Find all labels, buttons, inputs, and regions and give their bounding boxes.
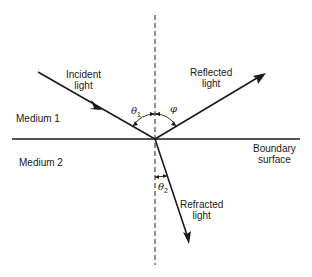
reflected-light-label: Reflected light	[190, 67, 232, 89]
boundary-surface-label: Boundary surface	[253, 143, 296, 165]
boundary-label-line1: Boundary	[253, 143, 296, 154]
theta1-subscript: 1	[137, 111, 141, 118]
phi-symbol: φ	[170, 104, 177, 114]
reflected-label-line1: Reflected	[190, 67, 232, 78]
theta1-arc-arrow-b	[150, 112, 155, 116]
refracted-label-line2: light	[180, 210, 223, 221]
phi-letter: φ	[170, 103, 177, 114]
phi-arc-arrow-a	[155, 112, 160, 116]
incident-label-line1: Incident	[66, 69, 101, 80]
theta1-arc-arrow-a	[133, 121, 138, 126]
incident-label-line2: light	[66, 80, 101, 91]
theta2-arc-arrow-a	[155, 175, 159, 179]
theta1-symbol: θ1	[131, 106, 141, 120]
refracted-label-line1: Refracted	[180, 199, 223, 210]
boundary-label-line2: surface	[253, 154, 296, 165]
incident-light-label: Incident light	[66, 69, 101, 91]
phi-arc-arrow-b	[171, 121, 176, 126]
medium-2-label: Medium 2	[19, 157, 63, 168]
reflected-label-line2: light	[190, 78, 232, 89]
theta2-symbol: θ2	[158, 182, 168, 196]
theta2-subscript: 2	[164, 187, 168, 194]
refraction-diagram	[0, 0, 312, 277]
medium-1-label: Medium 1	[16, 113, 60, 124]
refracted-light-label: Refracted light	[180, 199, 223, 221]
